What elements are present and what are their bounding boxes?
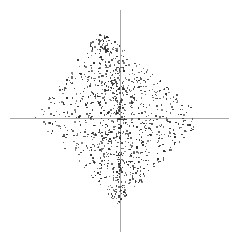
scatter-point	[77, 106, 78, 107]
scatter-point	[100, 41, 101, 42]
scatter-point	[92, 70, 93, 71]
scatter-point	[106, 134, 107, 135]
scatter-point	[105, 127, 106, 128]
plot-canvas	[0, 0, 239, 242]
scatter-point	[114, 79, 115, 80]
scatter-point	[84, 88, 85, 89]
scatter-point	[163, 126, 164, 127]
scatter-point	[128, 149, 129, 150]
scatter-point	[100, 122, 101, 123]
scatter-point	[63, 142, 64, 143]
scatter-point	[121, 152, 122, 153]
scatter-point	[48, 107, 49, 108]
scatter-point	[97, 85, 98, 86]
scatter-point	[105, 137, 106, 138]
scatter-point	[80, 100, 81, 101]
scatter-point	[112, 198, 113, 199]
scatter-point	[100, 112, 101, 113]
scatter-point	[145, 160, 146, 161]
scatter-point	[138, 182, 139, 183]
scatter-point	[68, 116, 69, 117]
scatter-point	[107, 143, 108, 144]
scatter-point	[115, 126, 116, 127]
scatter-point	[81, 98, 82, 99]
scatter-point	[108, 81, 109, 82]
scatter-point	[132, 73, 133, 74]
scatter-point	[128, 79, 129, 80]
scatter-point	[169, 149, 170, 150]
scatter-point	[125, 192, 126, 193]
scatter-point	[109, 99, 110, 100]
scatter-point	[52, 123, 53, 124]
scatter-point	[66, 83, 67, 84]
scatter-point	[74, 88, 75, 89]
scatter-point	[125, 122, 126, 123]
scatter-point	[187, 124, 188, 125]
scatter-point	[173, 133, 174, 134]
scatter-point	[166, 119, 167, 120]
scatter-point	[64, 125, 65, 126]
scatter-point	[117, 89, 118, 90]
scatter-point	[76, 147, 77, 148]
scatter-point	[95, 175, 96, 176]
scatter-point	[136, 126, 137, 127]
scatter-point	[69, 80, 70, 81]
scatter-point	[125, 146, 126, 147]
scatter-point	[105, 102, 106, 103]
scatter-point	[121, 127, 122, 128]
scatter-point	[115, 180, 116, 181]
scatter-point	[136, 80, 137, 81]
scatter-point	[107, 51, 108, 52]
scatter-point	[176, 94, 177, 95]
scatter-point	[100, 35, 101, 36]
scatter-point	[169, 121, 170, 122]
scatter-point	[126, 130, 127, 131]
scatter-point	[111, 146, 112, 147]
scatter-point	[123, 160, 124, 161]
scatter-point	[74, 109, 75, 110]
scatter-point	[104, 46, 105, 47]
scatter-point	[113, 171, 114, 172]
scatter-point	[108, 148, 109, 149]
scatter-point	[142, 122, 143, 123]
scatter-point	[118, 166, 119, 167]
scatter-point	[86, 107, 87, 108]
scatter-point	[124, 189, 125, 190]
scatter-point	[101, 135, 102, 136]
scatter-point	[64, 89, 65, 90]
scatter-point	[85, 129, 86, 130]
scatter-point	[81, 142, 82, 143]
scatter-point	[95, 125, 96, 126]
scatter-point	[123, 191, 124, 192]
scatter-point	[123, 89, 124, 90]
scatter-point	[159, 91, 160, 92]
scatter-point	[102, 39, 103, 40]
scatter-point	[122, 50, 123, 51]
scatter-point	[99, 63, 100, 64]
scatter-point	[123, 85, 124, 86]
scatter-point	[158, 131, 159, 132]
scatter-point	[123, 68, 124, 69]
scatter-point	[115, 177, 116, 178]
scatter-point	[110, 52, 111, 53]
scatter-point	[94, 96, 95, 97]
scatter-point	[118, 157, 119, 158]
scatter-point	[123, 62, 124, 63]
scatter-point	[168, 92, 169, 93]
scatter-point	[97, 101, 98, 102]
scatter-point	[143, 160, 144, 161]
scatter-point	[190, 130, 191, 131]
scatter-point	[111, 113, 112, 114]
scatter-point	[117, 73, 118, 74]
scatter-point	[101, 59, 102, 60]
scatter-point	[122, 187, 123, 188]
scatter-point	[151, 130, 152, 131]
scatter-point	[90, 154, 91, 155]
scatter-point	[98, 102, 99, 103]
scatter-point	[143, 104, 144, 105]
scatter-point	[92, 47, 93, 48]
scatter-point	[132, 122, 133, 123]
scatter-point	[147, 140, 148, 141]
scatter-point	[130, 144, 131, 145]
scatter-point	[163, 96, 164, 97]
